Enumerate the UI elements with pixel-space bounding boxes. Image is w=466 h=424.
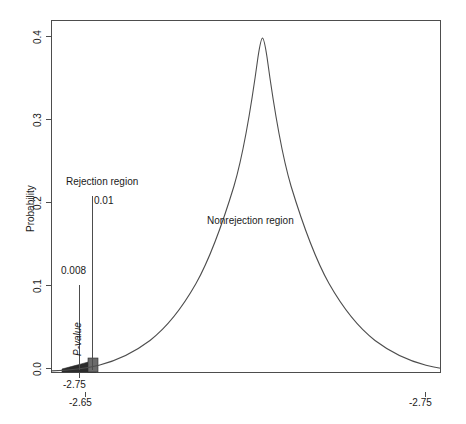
- y-tick-label-1: 0.1: [32, 279, 43, 293]
- x-axis-tick-row-lower: [86, 392, 426, 397]
- y-axis-ticks: [46, 37, 52, 369]
- nonrejection-region-label: Nonrejection region: [207, 215, 294, 226]
- rejection-region-label: Rejection region: [66, 176, 138, 187]
- x-tick-label-upper-left: -2.75: [63, 379, 86, 390]
- y-tick-label-3: 0.3: [32, 113, 43, 127]
- alpha-value-label: 0.01: [94, 195, 113, 206]
- chart-canvas: Probability 0.0 0.1 0.2 0.3 0.4 -2.75 -2…: [0, 0, 466, 424]
- p-value-label: P-value: [72, 322, 83, 356]
- y-tick-label-4: 0.4: [32, 30, 43, 44]
- y-tick-label-2: 0.2: [32, 196, 43, 210]
- p-value-number-label: 0.008: [61, 265, 86, 276]
- y-tick-label-0: 0.0: [32, 362, 43, 376]
- x-tick-label-lower-right: -2.75: [409, 397, 432, 408]
- x-tick-label-lower-left: -2.65: [69, 397, 92, 408]
- normal-distribution-plot: [0, 0, 466, 424]
